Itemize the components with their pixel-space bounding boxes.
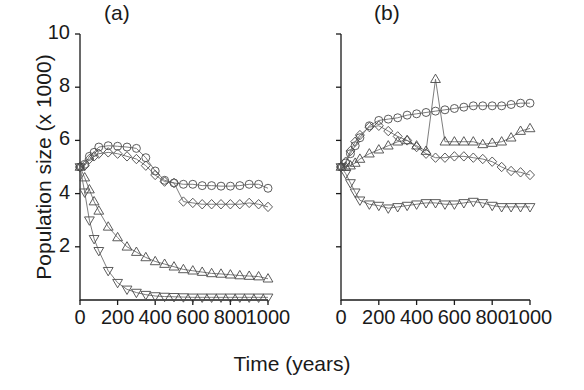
panel-label-b: (b) [374,1,400,25]
marker-triangle-up [141,252,151,260]
marker-triangle-up [244,271,254,279]
marker-triangle-up [450,137,460,145]
plot-area [0,0,584,390]
marker-triangle-down [197,294,207,302]
x-axis-label: Time (years) [0,352,584,376]
marker-triangle-down [516,204,526,212]
marker-triangle-up [468,137,478,145]
series-line-triangle-down [341,167,530,208]
marker-triangle-down [440,201,450,209]
panel-label-a: (a) [104,1,130,25]
marker-triangle-down [244,294,254,302]
x-tick-label: 1000 [238,306,298,329]
marker-triangle-down [207,294,217,302]
series-line-diamond [80,152,268,207]
y-tick-label: 8 [36,74,70,97]
marker-triangle-down [113,279,123,287]
marker-triangle-down [235,294,245,302]
marker-triangle-up [150,256,160,264]
marker-triangle-down [497,204,507,212]
marker-triangle-down [355,197,365,205]
marker-triangle-down [179,294,189,302]
marker-triangle-up [459,137,469,145]
marker-triangle-down [169,294,179,302]
panel-a [75,34,273,305]
marker-triangle-down [506,204,516,212]
marker-triangle-up [374,145,384,153]
series-line-diamond [341,126,530,175]
marker-triangle-up [254,271,264,279]
marker-triangle-up [103,222,113,230]
marker-triangle-down [450,201,460,209]
x-tick-label: 1000 [500,306,560,329]
panel-b [336,34,535,305]
marker-triangle-down [383,205,393,213]
marker-triangle-up [235,270,245,278]
axis-lines-a [80,34,268,300]
marker-triangle-up [525,123,535,131]
marker-triangle-up [355,154,365,162]
series-line-triangle-up [341,79,530,167]
y-tick-label: 4 [36,181,70,204]
y-tick-label: 6 [36,127,70,150]
marker-triangle-down [350,189,360,197]
y-tick-label: 10 [36,21,70,44]
marker-triangle-up [226,270,236,278]
marker-triangle-up [497,137,507,145]
marker-triangle-down [216,294,226,302]
marker-triangle-up [506,133,516,141]
y-axis-label: Population size (x 1000) [32,27,56,307]
marker-triangle-up [383,141,393,149]
figure-container: Population size (x 1000) Time (years) (a… [0,0,584,390]
y-tick-label: 2 [36,234,70,257]
marker-triangle-down [525,204,535,212]
marker-triangle-up [216,269,226,277]
marker-triangle-down [254,294,264,302]
